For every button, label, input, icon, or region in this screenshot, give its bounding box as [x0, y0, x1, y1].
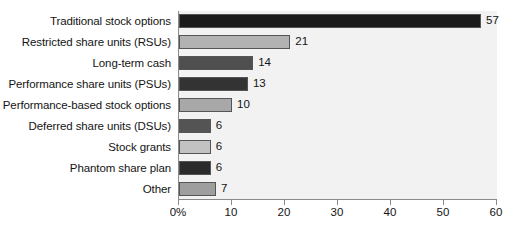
bar [179, 14, 481, 28]
category-label: Performance-based stock options [0, 99, 171, 111]
x-axis-tick [284, 200, 285, 205]
bar [179, 35, 290, 49]
x-axis-tick-label: 0% [170, 206, 187, 218]
bar-value-label: 13 [253, 76, 266, 91]
bar [179, 182, 216, 196]
bar-row: 6 [179, 119, 497, 133]
x-axis-tick [337, 200, 338, 205]
bar-value-label: 10 [237, 97, 250, 112]
bar-value-label: 21 [295, 34, 308, 49]
bar [179, 77, 248, 91]
bar-row: 7 [179, 182, 497, 196]
bar-row: 13 [179, 77, 497, 91]
category-axis-labels: Traditional stock options Restricted sha… [0, 11, 175, 200]
bar-row: 14 [179, 56, 497, 70]
x-axis-tick [443, 200, 444, 205]
bar-value-label: 6 [216, 160, 222, 175]
bar-value-label: 6 [216, 139, 222, 154]
x-axis-tick [178, 200, 179, 205]
bar [179, 161, 211, 175]
bar-value-label: 57 [486, 13, 499, 28]
bar [179, 98, 232, 112]
x-axis-tick-label: 10 [225, 206, 238, 218]
category-label: Traditional stock options [0, 15, 171, 27]
x-axis-tick [390, 200, 391, 205]
bar-row: 10 [179, 98, 497, 112]
category-label: Restricted share units (RSUs) [0, 36, 171, 48]
bar [179, 140, 211, 154]
bar [179, 119, 211, 133]
x-axis-tick [496, 200, 497, 205]
bar-value-label: 6 [216, 118, 222, 133]
bar-value-label: 7 [221, 181, 227, 196]
bar-row: 57 [179, 14, 497, 28]
category-label: Other [0, 183, 171, 195]
x-axis-tick-label: 60 [490, 206, 503, 218]
bar-row: 6 [179, 140, 497, 154]
bar-value-label: 14 [258, 55, 271, 70]
bar-row: 21 [179, 35, 497, 49]
x-axis-tick-label: 40 [384, 206, 397, 218]
category-label: Phantom share plan [0, 162, 171, 174]
category-label: Deferred share units (DSUs) [0, 120, 171, 132]
x-axis-tick-label: 20 [278, 206, 291, 218]
bar [179, 56, 253, 70]
category-label: Performance share units (PSUs) [0, 78, 171, 90]
x-axis-tick-label: 30 [331, 206, 344, 218]
bar-row: 6 [179, 161, 497, 175]
category-label: Long-term cash [0, 57, 171, 69]
x-axis-tick [231, 200, 232, 205]
category-label: Stock grants [0, 141, 171, 153]
x-axis-tick-label: 50 [437, 206, 450, 218]
bar-chart: Traditional stock options Restricted sha… [0, 0, 513, 231]
plot-area: 57 21 14 13 10 6 6 6 [178, 11, 497, 200]
